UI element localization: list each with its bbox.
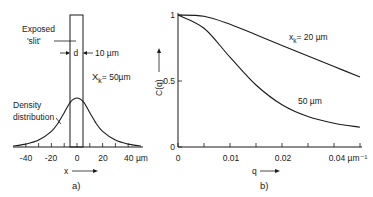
series-label-xk20: xk= 20 µm — [289, 32, 328, 44]
b-xlabel: q — [252, 166, 257, 176]
panel-b: 1 0.5 0 C(q) 0 0.01 0.02 0.04 µm⁻¹ xk= 2… — [154, 10, 368, 191]
b-ytick-label: 0.5 — [163, 76, 175, 86]
a-tick-label: 40 µm — [124, 153, 148, 163]
a-tick-label: 20 — [98, 153, 108, 163]
b-ytick-label: 0 — [170, 142, 175, 152]
b-ylabel: C(q) — [154, 79, 164, 96]
a-xlabel: x — [64, 166, 69, 176]
b-ytick-label: 1 — [170, 10, 175, 20]
exposed-slit — [70, 15, 83, 147]
a-x-ticks — [26, 143, 128, 147]
b-x-arrowhead — [275, 169, 280, 173]
b-xtick-label: 0.01 — [223, 153, 240, 163]
xk-label: Xk= 50µm — [92, 71, 131, 84]
b-xtick-label: 0.04 µm⁻¹ — [329, 153, 368, 163]
d-arrowhead-left — [66, 51, 70, 55]
curve-xk-20 — [178, 15, 360, 77]
panel-b-label: b) — [260, 180, 268, 191]
d-symbol: d — [74, 48, 79, 58]
a-x-arrowhead — [93, 169, 98, 173]
density-label-1: Density — [13, 100, 42, 110]
panel-a-label: a) — [72, 180, 80, 191]
a-tick-label: -40 — [20, 153, 33, 163]
d-value: 10 µm — [95, 48, 119, 58]
figure: Exposed 'slit' d 10 µm Xk= 50µm Density … — [0, 0, 373, 197]
b-xtick-label: 0.02 — [275, 153, 292, 163]
panel-a: Exposed 'slit' d 10 µm Xk= 50µm Density … — [13, 15, 148, 191]
d-arrowhead-right — [83, 51, 87, 55]
density-label-2: distribution — [13, 112, 54, 122]
a-tick-label: -20 — [45, 153, 58, 163]
series-label-xk50: 50 µm — [298, 96, 322, 106]
a-tick-label: 0 — [75, 153, 80, 163]
slit-label-1: Exposed — [22, 24, 55, 34]
curve-xk-50 — [178, 15, 360, 127]
b-xtick-label: 0 — [176, 153, 181, 163]
b-ticks — [178, 15, 360, 147]
b-y-arrowhead — [157, 48, 161, 53]
slit-label-2: 'slit' — [27, 36, 41, 46]
